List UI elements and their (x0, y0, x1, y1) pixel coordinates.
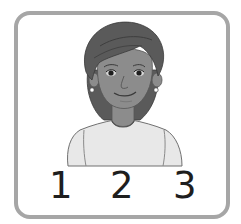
number-3: 3 (173, 166, 197, 206)
earring-right (154, 88, 158, 92)
ear-right (152, 73, 162, 87)
eye-right (136, 70, 141, 75)
number-2: 2 (110, 166, 134, 206)
eye-left (108, 70, 113, 75)
number-row: 1 2 3 (0, 166, 241, 206)
earring-left (90, 88, 94, 92)
number-1: 1 (49, 166, 73, 206)
